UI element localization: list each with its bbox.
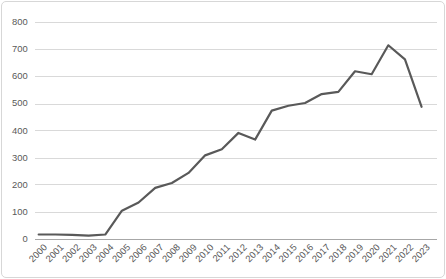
x-axis-tick-label: 2018: [327, 242, 349, 264]
y-axis-tick-label: 800: [12, 17, 28, 27]
x-axis-tick-label: 2021: [377, 242, 399, 264]
x-axis-tick-label: 2002: [60, 242, 82, 264]
x-axis-tick-label: 2005: [110, 242, 132, 264]
x-axis-tick-label: 2012: [227, 242, 249, 264]
x-axis-tick-label: 2016: [294, 242, 316, 264]
y-axis-tick-label: 300: [12, 153, 28, 163]
x-axis-tick-label: 2007: [144, 242, 166, 264]
x-axis-tick-label: 2010: [194, 242, 216, 264]
x-axis-tick-label: 2014: [260, 242, 282, 264]
line-chart: 0100200300400500600700800200020012002200…: [1, 1, 445, 278]
data-series-line: [39, 45, 422, 235]
chart-canvas: 0100200300400500600700800200020012002200…: [2, 2, 444, 277]
y-axis-tick-label: 200: [12, 180, 28, 190]
y-axis-tick-label: 700: [12, 44, 28, 54]
x-axis-tick-label: 2004: [94, 242, 116, 264]
x-axis-tick-label: 2001: [44, 242, 66, 264]
y-axis-tick-label: 100: [12, 207, 28, 217]
x-axis-tick-label: 2022: [393, 242, 415, 264]
y-axis-tick-label: 600: [12, 71, 28, 81]
x-axis-tick-label: 2017: [310, 242, 332, 264]
x-axis-tick-label: 2015: [277, 242, 299, 264]
x-axis-tick-label: 2009: [177, 242, 199, 264]
x-axis-tick-label: 2000: [27, 242, 49, 264]
y-axis-tick-label: 500: [12, 99, 28, 109]
x-axis-tick-label: 2006: [127, 242, 149, 264]
x-axis-tick-label: 2003: [77, 242, 99, 264]
y-axis-tick-label: 400: [12, 126, 28, 136]
y-axis-tick-label: 0: [23, 234, 28, 244]
x-axis-tick-label: 2019: [343, 242, 365, 264]
x-axis-tick-label: 2008: [160, 242, 182, 264]
x-axis-tick-label: 2020: [360, 242, 382, 264]
x-axis-tick-label: 2023: [410, 242, 432, 264]
x-axis-tick-label: 2013: [244, 242, 266, 264]
